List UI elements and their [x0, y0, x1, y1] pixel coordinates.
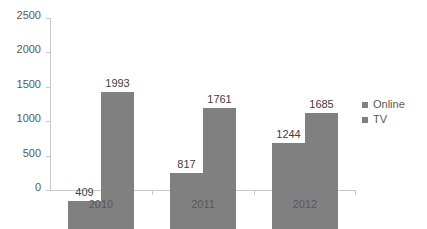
- chart-legend: Online TV: [362, 97, 405, 127]
- legend-swatch-icon: [362, 117, 368, 123]
- bar-rect: [272, 143, 305, 229]
- y-axis-tick-label: 2500: [17, 10, 41, 21]
- bar-value-label: 817: [177, 159, 195, 170]
- legend-label: TV: [373, 114, 387, 125]
- bar-value-label: 1993: [105, 78, 129, 89]
- legend-item-online[interactable]: Online: [362, 97, 405, 112]
- x-axis-category-label-2010: 2010: [50, 198, 152, 210]
- x-axis-category-label-2012: 2012: [254, 198, 356, 210]
- y-axis-tick-label: 2000: [17, 44, 41, 55]
- y-axis-tick-mark: [46, 52, 51, 53]
- legend-swatch-icon: [362, 102, 368, 108]
- bar-chart: 2500 2000 1500 1000 500 0 409 1993: [0, 0, 427, 229]
- bar-rect: [203, 108, 236, 229]
- bar-value-label: 1685: [309, 99, 333, 110]
- bar-value-label: 409: [75, 187, 93, 198]
- y-axis-tick-label: 1500: [17, 79, 41, 90]
- x-axis-category-label-2011: 2011: [152, 198, 254, 210]
- bar-value-label: 1761: [207, 94, 231, 105]
- y-axis-tick-label: 0: [35, 182, 41, 193]
- legend-item-tv[interactable]: TV: [362, 112, 405, 127]
- y-axis-tick-mark: [46, 18, 51, 19]
- y-axis-tick-label: 1000: [17, 113, 41, 124]
- y-axis-tick-label: 500: [23, 148, 41, 159]
- bar-rect: [305, 113, 338, 229]
- legend-label: Online: [373, 99, 405, 110]
- bar-value-label: 1244: [276, 129, 300, 140]
